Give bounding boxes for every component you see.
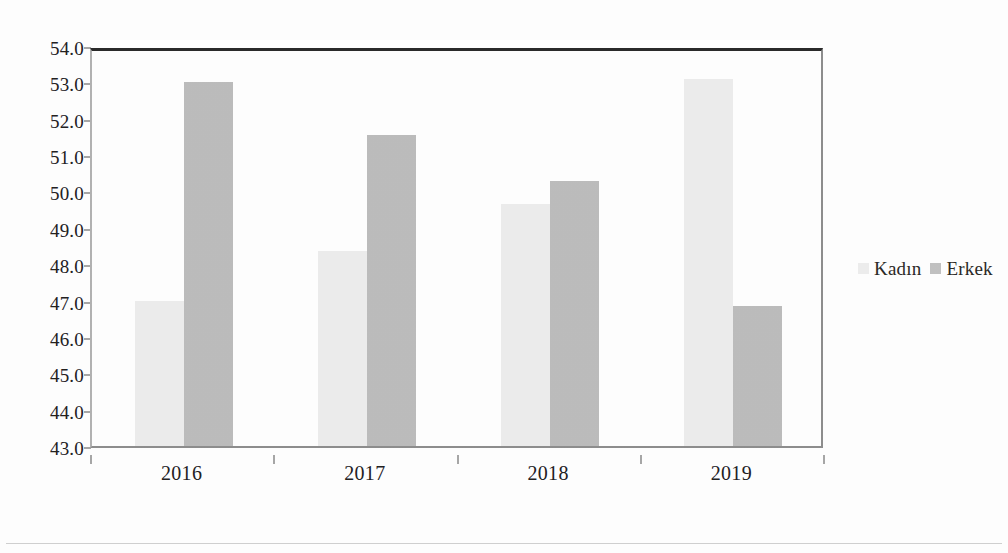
y-axis-tick-label: 50.0 [0,184,84,203]
x-axis: 2016201720182019 [90,455,823,495]
legend-entry-kadn: Kadın [858,259,921,278]
y-axis-tick-label: 52.0 [0,111,84,130]
bar-kadn-2017 [318,251,367,446]
x-axis-tick-mark [457,455,459,464]
x-axis-tick-label: 2019 [711,463,752,483]
y-axis-tick-label: 48.0 [0,257,84,276]
chart-legend: KadınErkek [858,259,993,278]
bar-chart-figure: 54.053.052.051.050.049.048.047.046.045.0… [0,0,1008,553]
x-axis-tick-mark [823,455,825,464]
y-axis-tick-label: 45.0 [0,366,84,385]
x-axis-tick-label: 2017 [344,463,385,483]
y-axis-tick-label: 49.0 [0,220,84,239]
legend-label: Erkek [946,259,992,278]
x-axis-tick-mark [90,455,92,464]
bar-erkek-2018 [550,181,599,446]
y-axis: 54.053.052.051.050.049.048.047.046.045.0… [0,48,84,448]
bar-kadn-2016 [135,301,184,446]
erkek-swatch [930,263,941,274]
footer-divider [6,543,1002,544]
legend-entry-erkek: Erkek [930,259,992,278]
bar-erkek-2017 [367,135,416,446]
y-axis-tick-label: 53.0 [0,75,84,94]
x-axis-tick-label: 2018 [528,463,569,483]
y-axis-tick-label: 46.0 [0,329,84,348]
y-axis-tick-label: 43.0 [0,439,84,458]
kadin-swatch [858,263,869,274]
bar-kadn-2018 [501,204,550,446]
bar-kadn-2019 [684,79,733,446]
bar-erkek-2016 [184,82,233,446]
bar-erkek-2019 [733,306,782,446]
y-axis-tick-label: 54.0 [0,39,84,58]
x-axis-tick-label: 2016 [161,463,202,483]
plot-area [90,48,823,448]
x-axis-tick-mark [273,455,275,464]
legend-label: Kadın [874,259,921,278]
y-axis-tick-label: 44.0 [0,402,84,421]
y-axis-tick-label: 51.0 [0,148,84,167]
y-axis-tick-label: 47.0 [0,293,84,312]
x-axis-tick-mark [640,455,642,464]
